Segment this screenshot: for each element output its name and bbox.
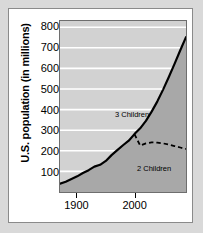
y-tick-label: 600 <box>23 62 59 74</box>
y-tick-label: 500 <box>23 83 59 95</box>
y-axis-tick-labels: 100200300400500600700800 <box>23 9 59 224</box>
y-tick-label: 100 <box>23 166 59 178</box>
x-axis: 19002000 <box>59 193 187 224</box>
x-tick-label: 1900 <box>64 199 88 211</box>
y-tick-label: 300 <box>23 124 59 136</box>
y-tick-label: 400 <box>23 104 59 116</box>
y-tick-label: 700 <box>23 41 59 53</box>
y-tick-label: 200 <box>23 145 59 157</box>
x-tick-mark <box>76 193 77 198</box>
chart-figure: U.S. population (in millions) 1002003004… <box>8 8 193 223</box>
series-annotation-2-children: 2 Children <box>137 164 171 173</box>
x-tick-mark <box>135 193 136 198</box>
series-annotation-3-children: 3 Children <box>115 110 149 119</box>
y-tick-label: 800 <box>23 20 59 32</box>
x-tick-label: 2000 <box>122 199 146 211</box>
